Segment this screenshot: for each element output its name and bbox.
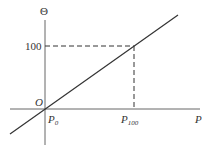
- p100-main: P: [121, 113, 128, 125]
- diagram-canvas: [0, 0, 214, 146]
- y-axis-label: Θ: [40, 6, 48, 17]
- x-tick-p0: P0: [48, 114, 58, 125]
- origin-label: O: [35, 97, 43, 108]
- x-tick-p100: P100: [121, 114, 138, 125]
- x-axis-label: P: [195, 114, 202, 125]
- data-line: [10, 15, 178, 134]
- p0-main: P: [48, 113, 55, 125]
- p100-sub: 100: [128, 119, 139, 127]
- y-tick-100: 100: [25, 41, 42, 52]
- p0-sub: 0: [55, 119, 59, 127]
